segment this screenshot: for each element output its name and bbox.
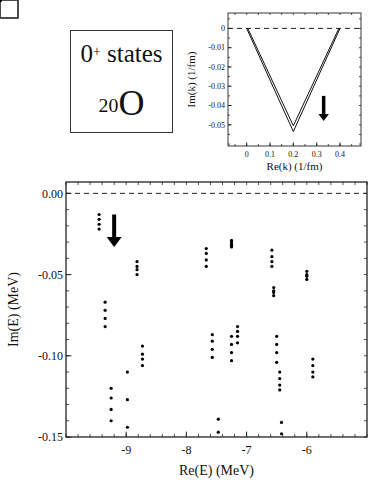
data-point [270,265,273,268]
data-point [135,268,138,271]
data-point [230,242,233,245]
data-point [98,223,101,226]
data-point [141,357,144,360]
x-tick-label: -9 [121,443,131,457]
data-point [205,252,208,255]
data-point [305,278,308,281]
data-point [211,356,214,359]
data-point [272,294,275,297]
resonance-point [0,0,2,2]
data-point [272,289,275,292]
contour-line [248,28,339,125]
plot-label-box: 0+ states 20O [70,30,173,133]
data-point [98,218,101,221]
data-point [141,353,144,356]
x-tick-label: 0 [245,150,249,159]
y-tick-label: -0.15 [38,430,63,444]
data-point [230,351,233,354]
data-point [280,432,283,435]
data-point [230,245,233,248]
data-point [98,213,101,216]
y-tick-label: -0.05 [208,121,225,130]
data-point [275,335,278,338]
data-point [311,357,314,360]
resonance-box [0,0,18,18]
data-point [230,239,233,242]
data-point [230,335,233,338]
x-tick-label: -8 [181,443,191,457]
y-axis-label: Im(E) (MeV) [6,272,22,347]
y-tick-label: -0.05 [38,268,63,282]
data-point [104,317,107,320]
data-point [135,260,138,263]
data-point [205,258,208,261]
data-point [278,388,281,391]
data-point [311,370,314,373]
data-point [205,247,208,250]
x-tick-label: 0.1 [265,150,275,159]
data-point [211,340,214,343]
data-point [280,421,283,424]
data-point [230,343,233,346]
data-point [305,275,308,278]
y-tick-label: 0 [221,24,225,33]
y-tick-label: 0.00 [42,187,63,201]
y-tick-label: -0.10 [38,349,63,363]
data-point [270,249,273,252]
data-point [278,383,281,386]
data-point [211,348,214,351]
y-tick-label: -0.04 [208,101,225,110]
data-point [217,431,220,434]
data-point [205,265,208,268]
data-point [141,344,144,347]
data-point [141,364,144,367]
x-tick-label: -6 [302,443,312,457]
data-point [236,341,239,344]
data-point [270,260,273,263]
data-point [104,301,107,304]
label-states: 0+ states [71,39,172,69]
resonance-point [0,0,2,2]
data-point [126,398,129,401]
data-point [270,255,273,258]
x-tick-label: -7 [242,443,252,457]
data-point [275,343,278,346]
data-point [230,359,233,362]
resonance-box [0,0,18,18]
x-axis-label: Re(E) (MeV) [179,463,254,479]
data-point [311,364,314,367]
data-point [104,309,107,312]
data-point [275,361,278,364]
data-point [305,273,308,276]
data-point [104,325,107,328]
data-point [305,270,308,273]
y-tick-label: -0.03 [208,82,225,91]
data-point [135,265,138,268]
y-axis-label: Im(k) (1/fm) [185,51,198,107]
data-point [275,351,278,354]
data-point [217,418,220,421]
data-point [272,291,275,294]
data-point [236,335,239,338]
data-point [278,377,281,380]
data-point [211,333,214,336]
resonance-box [0,0,18,18]
label-nucleus: 20O [71,83,172,123]
data-point [230,240,233,243]
resonance-point [0,0,2,2]
plot-frame [66,182,367,437]
data-point [110,396,113,399]
data-point [272,286,275,289]
y-tick-label: -0.02 [208,63,225,72]
down-arrow-icon [318,96,329,121]
data-point [110,387,113,390]
y-tick-label: -0.01 [208,43,225,52]
data-point [135,273,138,276]
data-point [98,228,101,231]
contour-line [247,28,340,131]
x-axis-label: Re(k) (1/fm) [267,160,323,173]
data-point [278,370,281,373]
data-point [236,330,239,333]
data-point [126,370,129,373]
down-arrow-icon [107,214,122,246]
